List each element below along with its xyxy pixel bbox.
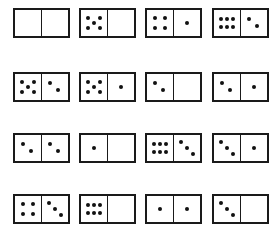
pip-icon [48, 81, 52, 85]
domino-half-left [15, 10, 42, 36]
pip-icon [252, 85, 256, 89]
domino-6-3 [145, 133, 202, 163]
pip-icon [92, 211, 96, 215]
pip-icon [86, 211, 90, 215]
domino-3-0 [212, 194, 269, 224]
pip-icon [158, 150, 162, 154]
domino-2-0 [145, 72, 202, 102]
domino-half-left [147, 135, 174, 161]
domino-half-left [15, 135, 42, 161]
pip-icon [98, 16, 102, 20]
pip-icon [56, 88, 60, 92]
pip-icon [153, 26, 157, 30]
pip-icon [255, 24, 259, 28]
domino-half-right [108, 135, 134, 161]
pip-icon [152, 150, 156, 154]
domino-half-left [214, 135, 241, 161]
domino-half-right [108, 74, 134, 100]
pip-icon [31, 212, 35, 216]
domino-half-left [214, 196, 241, 222]
pip-icon [98, 26, 102, 30]
domino-half-left [81, 196, 108, 222]
pip-icon [98, 211, 102, 215]
pip-icon [92, 146, 96, 150]
domino-half-right [108, 196, 134, 222]
pip-icon [119, 85, 123, 89]
pip-icon [48, 142, 52, 146]
domino-half-left [147, 10, 174, 36]
pip-icon [158, 142, 162, 146]
pip-icon [32, 90, 36, 94]
pip-icon [21, 212, 25, 216]
pip-icon [225, 207, 229, 211]
pip-icon [153, 16, 157, 20]
pip-icon [231, 152, 235, 156]
pip-icon [98, 203, 102, 207]
pip-icon [31, 202, 35, 206]
domino-half-left [214, 74, 241, 100]
domino-half-left [15, 196, 42, 222]
pip-icon [56, 149, 60, 153]
domino-0-0 [13, 8, 70, 38]
pip-icon [164, 150, 168, 154]
pip-icon [225, 146, 229, 150]
pip-icon [21, 202, 25, 206]
pip-icon [152, 142, 156, 146]
pip-icon [20, 80, 24, 84]
pip-icon [231, 213, 235, 217]
pip-icon [231, 25, 235, 29]
domino-half-right [241, 135, 267, 161]
domino-5-2 [13, 72, 70, 102]
pip-icon [21, 142, 25, 146]
pip-icon [92, 85, 96, 89]
domino-half-right [42, 196, 68, 222]
pip-icon [219, 25, 223, 29]
pip-icon [86, 90, 90, 94]
domino-half-right [174, 10, 200, 36]
domino-half-right [174, 135, 200, 161]
domino-4-3 [13, 194, 70, 224]
domino-half-right [241, 196, 267, 222]
pip-icon [219, 140, 223, 144]
pip-icon [179, 140, 183, 144]
domino-half-left [147, 196, 174, 222]
domino-4-1 [145, 8, 202, 38]
pip-icon [228, 88, 232, 92]
pip-icon [164, 142, 168, 146]
pip-icon [185, 21, 189, 25]
domino-half-right [241, 10, 267, 36]
pip-icon [153, 81, 157, 85]
pip-icon [163, 16, 167, 20]
pip-icon [92, 21, 96, 25]
pip-icon [86, 16, 90, 20]
pip-icon [86, 203, 90, 207]
domino-half-right [174, 196, 200, 222]
domino-half-right [42, 74, 68, 100]
domino-3-1 [212, 133, 269, 163]
pip-icon [98, 90, 102, 94]
domino-2-2 [13, 133, 70, 163]
pip-icon [86, 26, 90, 30]
pip-icon [219, 201, 223, 205]
domino-half-left [81, 135, 108, 161]
pip-icon [158, 207, 162, 211]
pip-icon [53, 207, 57, 211]
pip-icon [225, 17, 229, 21]
pip-icon [92, 203, 96, 207]
pip-icon [59, 213, 63, 217]
pip-icon [185, 146, 189, 150]
domino-5-0 [79, 8, 136, 38]
pip-icon [220, 81, 224, 85]
pip-icon [163, 26, 167, 30]
domino-half-left [81, 74, 108, 100]
pip-icon [185, 207, 189, 211]
domino-half-right [174, 74, 200, 100]
pip-icon [32, 80, 36, 84]
domino-half-right [42, 10, 68, 36]
pip-icon [26, 85, 30, 89]
domino-half-right [241, 74, 267, 100]
domino-half-right [108, 10, 134, 36]
pip-icon [161, 88, 165, 92]
pip-icon [20, 90, 24, 94]
domino-1-1 [145, 194, 202, 224]
